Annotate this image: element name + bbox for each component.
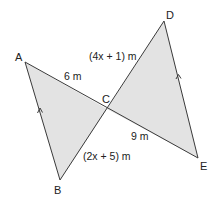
vertex-label-b: B [54,184,61,196]
vertex-label-c: C [102,93,110,105]
vertex-label-d: D [166,9,174,21]
label-ac: 6 m [64,70,82,82]
vertex-label-e: E [200,160,207,172]
label-ce: 9 m [131,130,149,142]
similar-triangles-diagram: A B C D E 6 m 9 m (4x + 1) m (2x + 5) m [0,0,217,200]
vertex-label-a: A [15,51,23,63]
triangle-dec [107,21,198,158]
label-cb: (2x + 5) m [83,150,131,162]
label-dc: (4x + 1) m [89,50,137,62]
